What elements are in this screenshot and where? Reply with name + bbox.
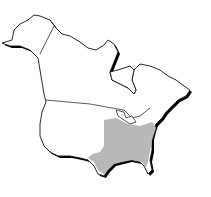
continent-land: [2, 15, 190, 176]
north-america-map: [0, 0, 211, 197]
